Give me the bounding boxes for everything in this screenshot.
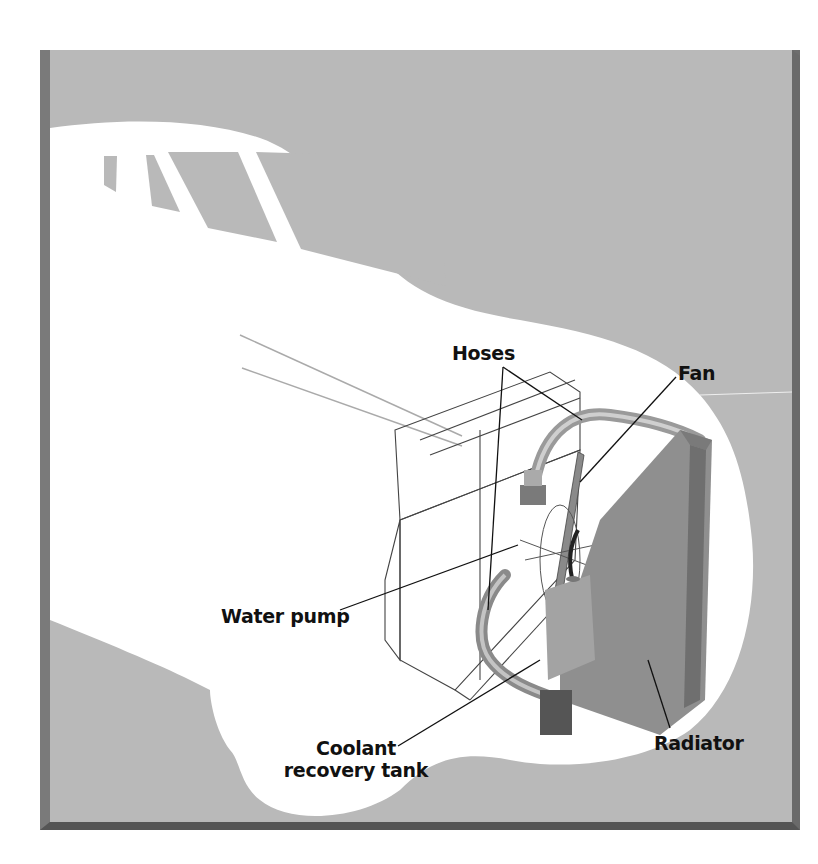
label-coolant-line1: Coolant bbox=[276, 737, 436, 759]
cooling-system-diagram: Hoses Fan Water pump Coolant recovery ta… bbox=[0, 0, 818, 864]
label-coolant-line2: recovery tank bbox=[276, 759, 436, 781]
radiator-bracket bbox=[540, 690, 572, 735]
label-water-pump: Water pump bbox=[221, 605, 350, 627]
label-fan: Fan bbox=[678, 362, 715, 384]
label-coolant-recovery-tank: Coolant recovery tank bbox=[276, 737, 436, 781]
label-hoses: Hoses bbox=[452, 342, 515, 364]
label-radiator: Radiator bbox=[654, 732, 744, 754]
